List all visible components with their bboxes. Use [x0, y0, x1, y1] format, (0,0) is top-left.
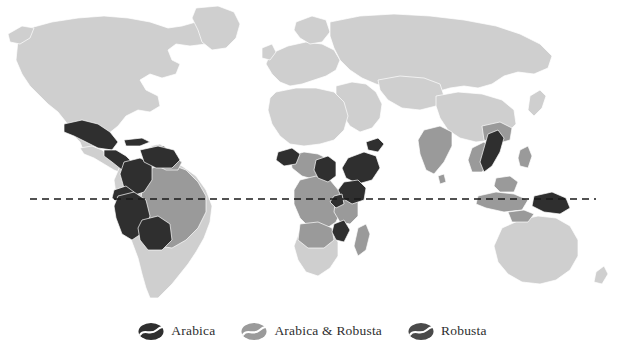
map-area — [0, 0, 625, 300]
coffee-bean-icon — [138, 322, 164, 341]
legend: Arabica Arabica & Robusta Robusta — [0, 306, 625, 356]
legend-item-arabica-robusta[interactable]: Arabica & Robusta — [241, 322, 382, 341]
world-map-svg — [0, 0, 625, 300]
coffee-bean-icon — [241, 322, 267, 341]
legend-label-arabica-robusta: Arabica & Robusta — [274, 324, 382, 338]
legend-item-robusta[interactable]: Robusta — [408, 322, 487, 341]
legend-label-arabica: Arabica — [171, 324, 215, 338]
legend-item-arabica[interactable]: Arabica — [138, 322, 215, 341]
coffee-bean-icon — [408, 322, 434, 341]
coffee-world-map-figure: Arabica Arabica & Robusta Robusta — [0, 0, 625, 362]
legend-label-robusta: Robusta — [441, 324, 487, 338]
